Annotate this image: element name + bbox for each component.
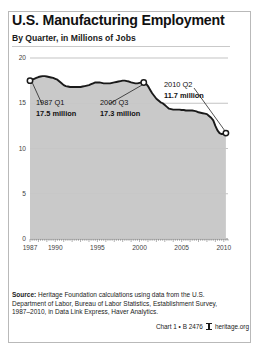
y-axis-tick-label: 15 [12, 99, 26, 106]
chart-credit: Chart 1 • B 2476 heritage.org [156, 323, 249, 330]
annotation-1987q1: 1987 Q1 17.5 million [36, 98, 76, 119]
source-label: Source: [12, 291, 36, 298]
annotation-value: 11.7 million [164, 91, 204, 102]
x-axis-tick-label: 1990 [42, 244, 68, 251]
annotation-period: 1987 Q1 [36, 98, 76, 109]
x-axis-tick-label: 2000 [127, 244, 153, 251]
annotation-value: 17.3 million [100, 109, 140, 120]
x-axis-ticks [30, 239, 228, 242]
annotation-period: 2000 Q3 [100, 98, 140, 109]
annotation-2010q2: 2010 Q2 11.7 million [164, 80, 204, 101]
page-title: U.S. Manufacturing Employment [12, 12, 225, 28]
chart-number: Chart 1 • B 2476 [156, 323, 203, 330]
heritage-site-label: heritage.org [215, 323, 249, 330]
annotation-value: 17.5 million [36, 109, 76, 120]
annotation-period: 2010 Q2 [164, 80, 204, 91]
y-axis-tick-label: 10 [12, 145, 26, 152]
y-axis-tick-label: 0 [12, 235, 26, 242]
x-axis-tick-label: 1995 [84, 244, 110, 251]
annotation-2000q3: 2000 Q3 17.3 million [100, 98, 140, 119]
y-axis-tick-label: 20 [12, 54, 26, 61]
x-axis-tick-label: 2010 [211, 244, 237, 251]
title-divider [12, 46, 230, 47]
source-text: Heritage Foundation calculations using d… [12, 291, 217, 315]
heritage-shield-icon [206, 323, 212, 330]
source-note: Source: Heritage Foundation calculations… [12, 291, 234, 317]
x-axis-tick-label: 1987 [17, 244, 43, 251]
x-axis-tick-label: 2005 [169, 244, 195, 251]
chart-subtitle: By Quarter, in Millions of Jobs [12, 33, 136, 43]
chart-plot-area: 05101520 198719901995200020052010 1987 Q… [12, 52, 230, 257]
y-axis-tick-label: 5 [12, 190, 26, 197]
